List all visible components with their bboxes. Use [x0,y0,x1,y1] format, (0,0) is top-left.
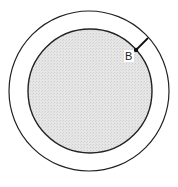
inner-shaded-circle [28,29,152,153]
point-b-marker [134,48,138,52]
radial-segment [136,38,148,50]
point-b-label: B [125,50,132,62]
center-dot [89,91,90,92]
two-circles-diagram: B [0,0,178,187]
